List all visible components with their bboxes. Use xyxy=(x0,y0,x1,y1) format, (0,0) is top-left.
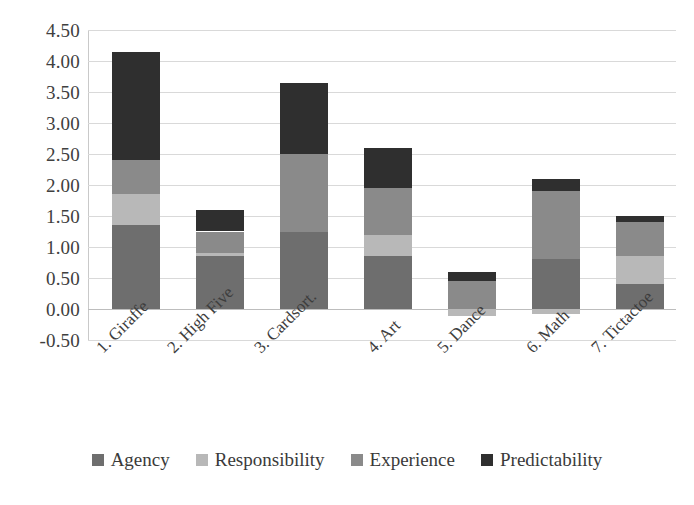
y-axis-tick-label: 0.50 xyxy=(10,269,80,288)
bar-segment xyxy=(112,225,160,309)
y-axis-tick-label: 3.50 xyxy=(10,83,80,102)
x-axis-category-labels: 1. Giraffe2. High Five3. Cardsort.4. Art… xyxy=(88,340,676,450)
bar-segment xyxy=(616,256,664,284)
y-axis-tick-label: 1.50 xyxy=(10,207,80,226)
bar-segment xyxy=(112,194,160,225)
bar-segment xyxy=(616,216,664,222)
legend-label: Responsibility xyxy=(215,450,325,469)
bar-segment xyxy=(196,253,244,256)
legend-item[interactable]: Agency xyxy=(92,450,170,469)
y-axis-tick-label: 1.00 xyxy=(10,238,80,257)
bar-segment xyxy=(364,188,412,235)
bar-segment xyxy=(280,154,328,232)
legend-swatch-icon xyxy=(196,454,208,466)
y-axis-tick-label: 4.00 xyxy=(10,52,80,71)
legend-item[interactable]: Predictability xyxy=(481,450,602,469)
bar-group xyxy=(448,30,496,340)
bar-segment xyxy=(532,191,580,259)
y-axis-tick-label: -0.50 xyxy=(10,331,80,350)
y-axis-tick-label: 2.50 xyxy=(10,145,80,164)
bar-segment xyxy=(112,160,160,194)
plot-area xyxy=(88,30,676,340)
bar-segment xyxy=(448,272,496,281)
legend-swatch-icon xyxy=(92,454,104,466)
bar-group xyxy=(364,30,412,340)
bar-segment xyxy=(196,210,244,232)
bar-group xyxy=(532,30,580,340)
y-axis-tick-label: 2.00 xyxy=(10,176,80,195)
bars-layer xyxy=(88,30,676,340)
bar-segment xyxy=(616,222,664,256)
legend-label: Experience xyxy=(370,450,455,469)
y-axis-tick-label: 3.00 xyxy=(10,114,80,133)
y-axis-tick-label: 4.50 xyxy=(10,21,80,40)
bar-segment xyxy=(112,52,160,161)
stacked-bar-chart: 4.504.003.503.002.502.001.501.000.500.00… xyxy=(0,0,694,505)
chart-legend: AgencyResponsibilityExperiencePredictabi… xyxy=(0,450,694,469)
bar-group xyxy=(112,30,160,340)
bar-segment xyxy=(364,256,412,309)
bar-segment xyxy=(364,235,412,257)
y-axis-tick-label: 0.00 xyxy=(10,300,80,319)
legend-item[interactable]: Experience xyxy=(351,450,455,469)
legend-swatch-icon xyxy=(351,454,363,466)
legend-item[interactable]: Responsibility xyxy=(196,450,325,469)
legend-swatch-icon xyxy=(481,454,493,466)
bar-segment xyxy=(280,83,328,154)
bar-segment xyxy=(532,259,580,309)
legend-label: Agency xyxy=(111,450,170,469)
bar-segment xyxy=(532,179,580,191)
legend-label: Predictability xyxy=(500,450,602,469)
bar-segment xyxy=(364,148,412,188)
bar-segment xyxy=(196,232,244,254)
